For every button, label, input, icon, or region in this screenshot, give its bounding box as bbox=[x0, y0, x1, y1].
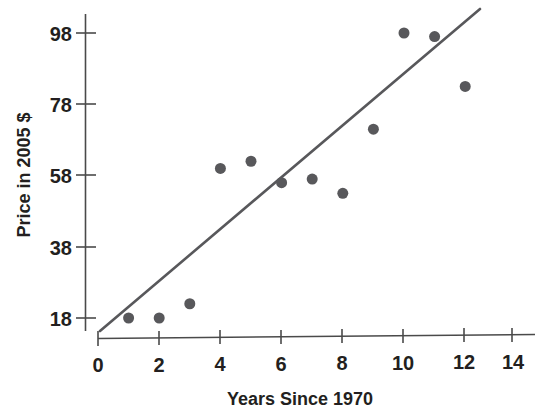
chart-canvas: 98 78 58 38 18 0 2 4 6 8 10 12 14 Years … bbox=[0, 0, 541, 420]
x-tick-label-8: 8 bbox=[336, 352, 347, 374]
y-tick-label-58: 58 bbox=[50, 165, 72, 187]
x-tick-label-6: 6 bbox=[275, 353, 286, 375]
y-tick-labels: 98 78 58 38 18 bbox=[50, 23, 72, 330]
data-point bbox=[307, 174, 318, 185]
x-tick-label-12: 12 bbox=[453, 351, 475, 373]
y-tick-label-38: 38 bbox=[50, 237, 72, 259]
x-tick-label-2: 2 bbox=[153, 354, 164, 376]
data-point bbox=[246, 156, 257, 167]
data-point bbox=[123, 313, 134, 324]
data-points-group bbox=[123, 28, 471, 324]
y-axis-title: Price in 2005 $ bbox=[14, 112, 34, 237]
data-point bbox=[184, 298, 195, 309]
y-tick-label-78: 78 bbox=[50, 94, 72, 116]
x-tick-label-0: 0 bbox=[92, 354, 103, 376]
x-tick-label-10: 10 bbox=[392, 352, 414, 374]
data-point bbox=[276, 177, 287, 188]
x-axis-line bbox=[98, 335, 535, 339]
x-tick-label-14: 14 bbox=[502, 351, 525, 373]
x-tick-label-4: 4 bbox=[214, 353, 226, 375]
trend-line bbox=[100, 9, 480, 331]
data-point bbox=[154, 313, 165, 324]
scatter-chart: 98 78 58 38 18 0 2 4 6 8 10 12 14 Years … bbox=[0, 0, 541, 420]
y-tick-label-98: 98 bbox=[50, 23, 72, 45]
data-point bbox=[460, 81, 471, 92]
data-point bbox=[368, 124, 379, 135]
x-tick-labels: 0 2 4 6 8 10 12 14 bbox=[92, 351, 525, 376]
x-axis-title: Years Since 1970 bbox=[227, 389, 373, 409]
data-point bbox=[399, 28, 410, 39]
y-tick-label-18: 18 bbox=[50, 308, 72, 330]
data-point bbox=[429, 31, 440, 42]
data-point bbox=[337, 188, 348, 199]
data-point bbox=[215, 163, 226, 174]
